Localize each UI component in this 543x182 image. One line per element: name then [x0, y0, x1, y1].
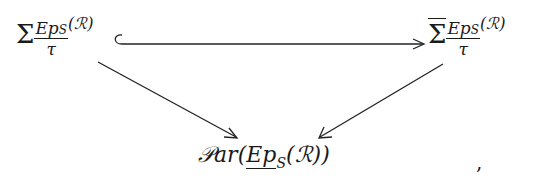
- left-diagonal-arrow-line: [98, 62, 236, 137]
- node-sigma-tau: ΣEpSτ(ℛ): [16, 16, 93, 58]
- commutative-diagram: ΣEpSτ(ℛ) ΣEpSτ(ℛ) 𝒫ar(EpS(ℛ)) ,: [0, 0, 543, 182]
- arrowhead-icon: [224, 128, 237, 138]
- node-par: 𝒫ar(EpS(ℛ)): [198, 144, 330, 170]
- sigma-bar-symbol: Σ: [428, 18, 446, 49]
- node-sigma-bar-tau: ΣEpSτ(ℛ): [428, 16, 505, 58]
- fraction: EpSτ: [34, 20, 68, 58]
- hook-icon: [115, 35, 122, 44]
- fraction: EpSτ: [446, 20, 480, 58]
- trailing-comma: ,: [476, 152, 482, 172]
- sigma-symbol: Σ: [16, 19, 34, 49]
- right-diagonal-arrow-line: [320, 64, 443, 137]
